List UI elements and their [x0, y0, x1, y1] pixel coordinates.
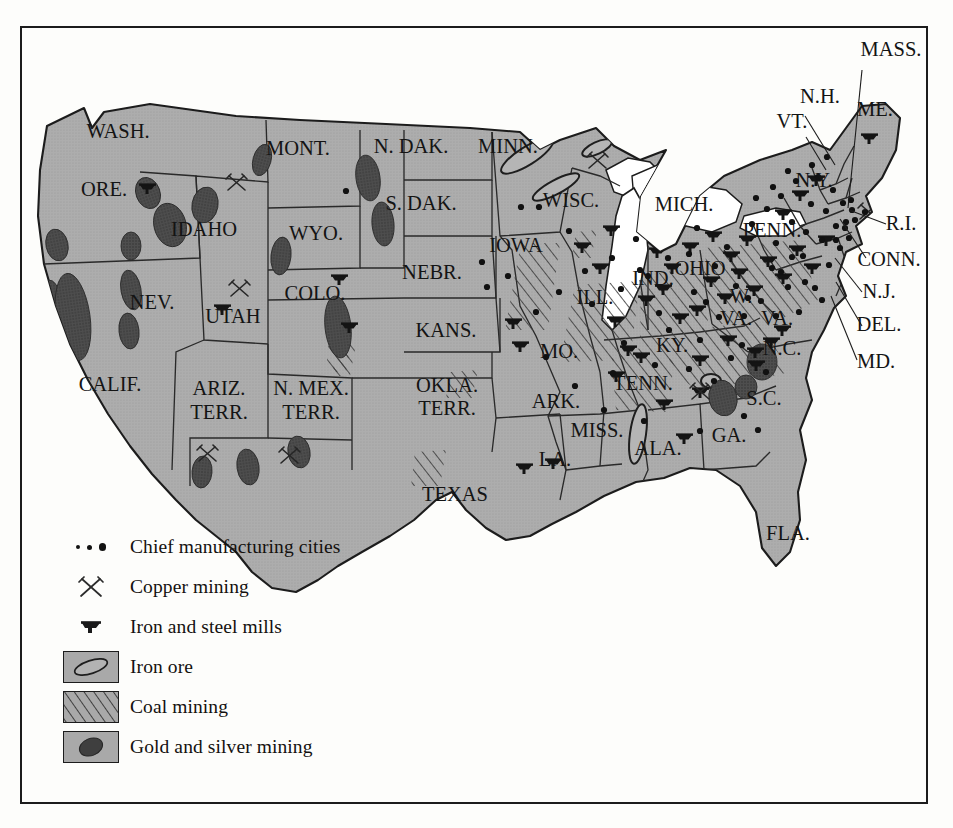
manufacturing-city-dot [582, 268, 588, 274]
legend-label-iron-ore: Iron ore [130, 656, 193, 678]
manufacturing-city-dot [572, 383, 578, 389]
manufacturing-city-dot [566, 228, 572, 234]
manufacturing-city-dot [758, 298, 764, 304]
state-label: N.C. [763, 337, 802, 359]
manufacturing-city-dot [601, 407, 607, 413]
anvil-icon [52, 618, 130, 636]
state-label: N. MEX. [273, 377, 349, 399]
legend-item-iron-ore: Iron ore [52, 647, 472, 687]
manufacturing-city-dot [741, 413, 747, 419]
state-label: GA. [712, 424, 747, 446]
map-legend: Chief manufacturing cities Copper mining [52, 527, 472, 767]
legend-label-coal-mining: Coal mining [130, 696, 228, 718]
state-label: ALA. [634, 437, 681, 459]
state-label: MONT. [266, 137, 330, 159]
label-leader-line [831, 296, 857, 360]
manufacturing-city-dot [533, 309, 539, 315]
manufacturing-city-dot [785, 168, 791, 174]
manufacturing-city-dot [694, 225, 700, 231]
manufacturing-city-dot [812, 285, 818, 291]
manufacturing-city-dot [641, 418, 647, 424]
state-label: VT. [777, 110, 808, 132]
manufacturing-city-dot [616, 514, 622, 520]
manufacturing-city-dot [833, 223, 839, 229]
legend-item-gold-silver-mining: Gold and silver mining [52, 727, 472, 767]
manufacturing-city-dot [802, 279, 808, 285]
manufacturing-city-dot [609, 255, 615, 261]
manufacturing-city-dot [724, 244, 730, 250]
manufacturing-city-dot [840, 200, 846, 206]
state-label: VA. [761, 307, 793, 329]
manufacturing-city-dot [833, 237, 839, 243]
state-label: UTAH [205, 305, 260, 327]
manufacturing-city-dot [479, 259, 485, 265]
manufacturing-city-dot [621, 340, 627, 346]
gold-silver-swatch [52, 731, 130, 763]
state-label: COLO. [285, 282, 346, 304]
state-label: WASH. [86, 120, 149, 142]
manufacturing-city-dot [796, 309, 802, 315]
crossed-picks-icon [52, 574, 130, 600]
manufacturing-city-dot [711, 378, 717, 384]
state-label: TERR. [282, 401, 340, 423]
manufacturing-city-dot [703, 299, 709, 305]
legend-item-manufacturing-cities: Chief manufacturing cities [52, 527, 472, 567]
state-label: NEBR. [402, 261, 462, 283]
manufacturing-city-dot [808, 201, 814, 207]
manufacturing-city-dot [862, 209, 868, 215]
state-label: PENN. [743, 219, 802, 241]
manufacturing-city-dot [505, 273, 511, 279]
state-label: IDAHO [171, 218, 237, 240]
state-label: LA. [539, 448, 571, 470]
state-label: TERR. [418, 397, 476, 419]
manufacturing-city-dot [536, 204, 542, 210]
state-label: IOWA [489, 234, 543, 256]
state-label: N.H. [800, 85, 840, 107]
state-label: MO. [540, 340, 578, 362]
manufacturing-city-dot [809, 162, 815, 168]
state-label: S. DAK. [385, 192, 456, 214]
coal-zone [411, 450, 446, 486]
state-label: KANS. [416, 319, 477, 341]
manufacturing-city-dot [769, 265, 775, 271]
manufacturing-city-dot [763, 369, 769, 375]
state-label: ME. [857, 98, 893, 120]
manufacturing-city-dot [778, 269, 784, 275]
state-label: N. DAK. [374, 135, 449, 157]
state-label: MISS. [571, 419, 624, 441]
manufacturing-city-dot [819, 297, 825, 303]
state-label: W. [730, 285, 753, 307]
manufacturing-city-dot [800, 253, 806, 259]
state-label: R.I. [886, 212, 917, 234]
state-label: OHIO [674, 257, 725, 279]
manufacturing-city-dot [686, 366, 692, 372]
state-label: ARK. [532, 390, 580, 412]
manufacturing-city-dot [518, 204, 524, 210]
manufacturing-city-dot [697, 428, 703, 434]
legend-item-coal-mining: Coal mining [52, 687, 472, 727]
state-label: TENN. [613, 372, 673, 394]
state-label: IND. [632, 267, 674, 289]
legend-label-iron-steel-mills: Iron and steel mills [130, 616, 282, 638]
state-label: OKLA. [416, 374, 478, 396]
manufacturing-city-dot [652, 362, 658, 368]
manufacturing-city-dot [343, 188, 349, 194]
manufacturing-city-dot [556, 289, 562, 295]
three-dots-icon [52, 543, 130, 551]
legend-item-iron-steel-mills: Iron and steel mills [52, 607, 472, 647]
iron-ore-swatch [52, 651, 130, 683]
manufacturing-city-dot [803, 229, 809, 235]
state-label: WISC. [543, 189, 599, 211]
legend-label-copper-mining: Copper mining [130, 576, 249, 598]
gold-silver-deposit [121, 232, 141, 260]
legend-item-copper-mining: Copper mining [52, 567, 472, 607]
manufacturing-city-dot [823, 208, 829, 214]
state-label: MD. [857, 350, 895, 372]
state-label: MICH. [655, 193, 714, 215]
manufacturing-city-dot [778, 193, 784, 199]
state-label: S.C. [746, 387, 781, 409]
state-label: DEL. [857, 313, 902, 335]
manufacturing-city-dot [728, 355, 734, 361]
manufacturing-city-dot [484, 284, 490, 290]
state-label: NEV. [130, 291, 175, 313]
